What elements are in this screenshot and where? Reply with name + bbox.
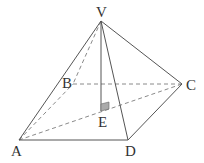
pyramid-svg: V B C E A D: [0, 0, 204, 163]
label-C: C: [186, 77, 196, 93]
pyramid-diagram: V B C E A D: [0, 0, 204, 163]
label-D: D: [125, 143, 136, 159]
edge-VB: [73, 21, 101, 84]
label-A: A: [11, 143, 22, 159]
edge-VA: [19, 21, 101, 140]
edge-AB: [19, 84, 73, 140]
edge-DC: [128, 84, 182, 140]
label-B: B: [62, 75, 72, 91]
label-E: E: [98, 114, 107, 130]
label-V: V: [96, 4, 107, 20]
